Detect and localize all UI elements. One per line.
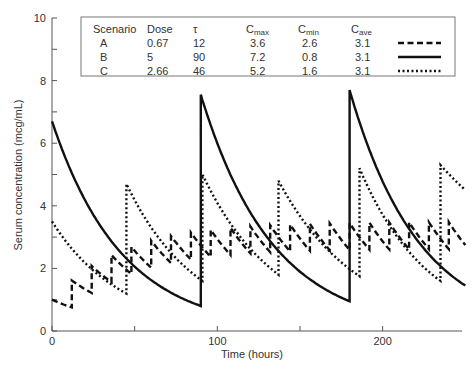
legend-header: Dose — [147, 23, 173, 35]
x-axis-label: Time (hours) — [221, 348, 283, 360]
legend-cell-scenario: A — [100, 37, 108, 49]
legend-header: τ — [193, 23, 198, 35]
legend-cell-cmax: 3.6 — [250, 37, 265, 49]
y-tick-label: 6 — [40, 137, 46, 149]
legend-cell-scenario: C — [100, 65, 108, 77]
x-ticks: 0100200 — [49, 326, 392, 347]
legend-cell-cave: 3.1 — [355, 51, 370, 63]
legend-box — [81, 17, 455, 76]
x-tick-label: 100 — [208, 335, 226, 347]
legend-cell-dose: 0.67 — [147, 37, 168, 49]
y-axis-label: Serum concentration (mcg/mL) — [12, 100, 24, 251]
series-C-line — [52, 165, 465, 293]
x-tick-label: 200 — [373, 335, 391, 347]
x-tick-label: 0 — [49, 335, 55, 347]
legend-cell-cave: 3.1 — [355, 37, 370, 49]
chart-svg: 0246810 0100200 Time (hours) Serum conce… — [0, 0, 473, 371]
legend-cell-tau: 46 — [193, 65, 205, 77]
legend-table: ScenarioDoseτCmaxCminCave A0.67123.62.63… — [81, 17, 455, 77]
y-tick-label: 8 — [40, 75, 46, 87]
legend-cell-cave: 3.1 — [355, 65, 370, 77]
y-tick-label: 10 — [34, 12, 46, 24]
y-tick-label: 0 — [40, 325, 46, 337]
legend-cell-cmin: 2.6 — [302, 37, 317, 49]
y-tick-label: 2 — [40, 262, 46, 274]
series-A-line — [52, 222, 465, 307]
legend-cell-cmax: 7.2 — [250, 51, 265, 63]
series-B-line — [52, 90, 465, 306]
legend-cell-dose: 2.66 — [147, 65, 168, 77]
legend-cell-cmin: 1.6 — [302, 65, 317, 77]
y-ticks: 0246810 — [34, 12, 57, 337]
legend-cell-dose: 5 — [147, 51, 153, 63]
y-tick-label: 4 — [40, 200, 46, 212]
legend-cell-tau: 12 — [193, 37, 205, 49]
legend-cell-tau: 90 — [193, 51, 205, 63]
legend-cell-cmax: 5.2 — [250, 65, 265, 77]
legend-cell-cmin: 0.8 — [302, 51, 317, 63]
legend-cell-scenario: B — [100, 51, 107, 63]
series-lines — [52, 90, 465, 307]
legend-header: Scenario — [93, 23, 136, 35]
